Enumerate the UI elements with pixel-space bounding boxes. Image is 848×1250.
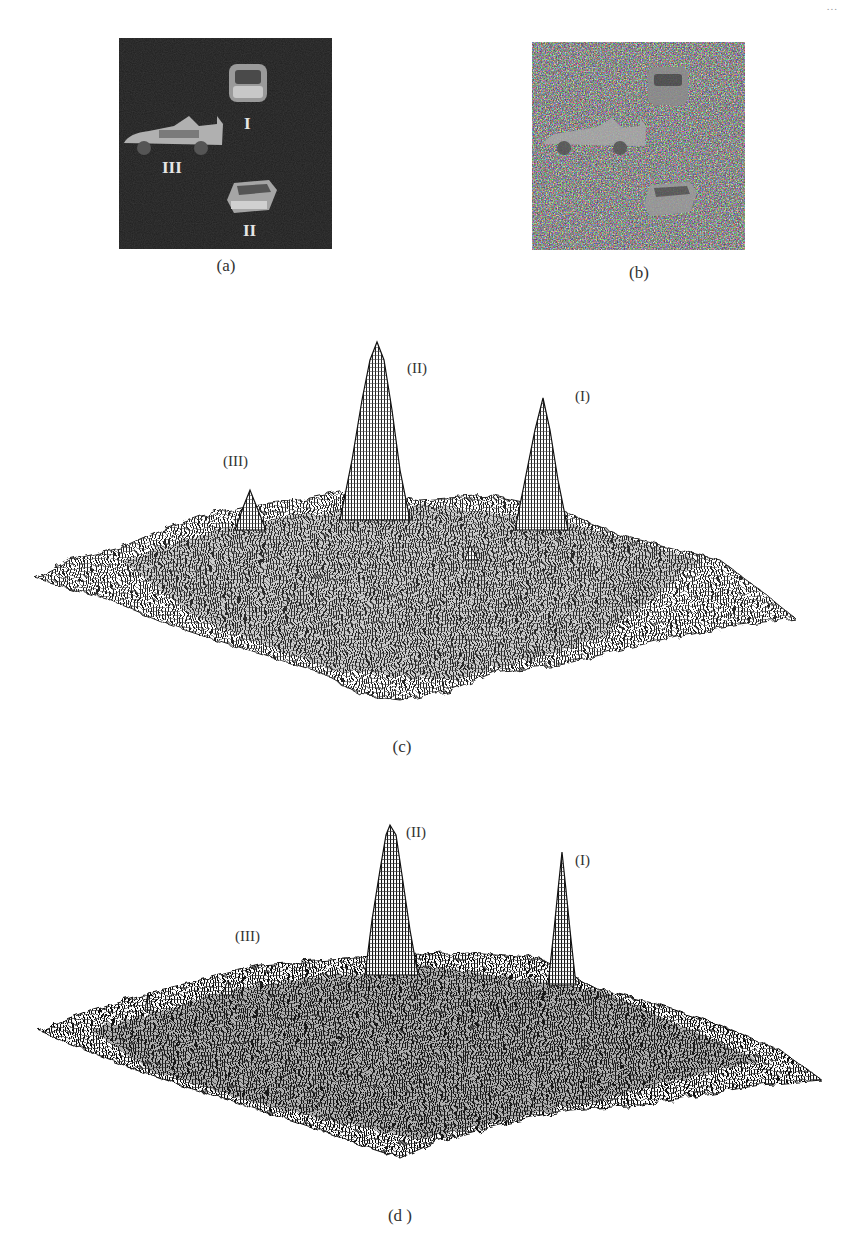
car-ii-icon — [227, 180, 277, 213]
figure-c-surface-plot: (II) (I) (III) — [0, 330, 848, 710]
figure-b-image — [532, 42, 745, 250]
figure-d-caption: (d ) — [370, 1206, 430, 1226]
surface-mesh-d — [0, 810, 848, 1180]
peak-label-c-ii: (II) — [407, 360, 427, 377]
figure-a-image: I III II — [119, 38, 332, 249]
page-number: ... — [827, 0, 838, 12]
noisy-cars-scene-illustration — [532, 42, 745, 250]
peak-label-c-i: (I) — [575, 388, 590, 405]
surface-mesh-c — [0, 330, 848, 710]
figure-c-caption: (c) — [372, 737, 432, 757]
peak-label-c-iii: (III) — [223, 453, 248, 470]
figure-a-caption: (a) — [196, 256, 256, 276]
car-i-icon — [229, 64, 267, 102]
car-label-ii: II — [243, 221, 256, 241]
peak-label-d-ii: (II) — [406, 824, 426, 841]
figure-d-surface-plot: (II) (I) (III) — [0, 810, 848, 1180]
peak-label-d-iii: (III) — [235, 928, 260, 945]
peak-label-d-i: (I) — [575, 852, 590, 869]
cars-scene-illustration — [119, 38, 332, 249]
car-label-i: I — [244, 114, 251, 134]
figure-b-caption: (b) — [609, 263, 669, 283]
car-label-iii: III — [162, 158, 182, 178]
